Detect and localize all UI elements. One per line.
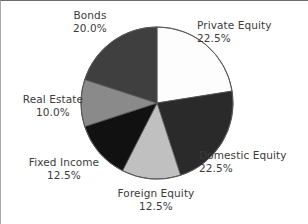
pie-label-domestic-equity-value: 22.5% — [199, 162, 287, 175]
pie-label-domestic-equity-name: Domestic Equity — [199, 149, 287, 161]
pie-label-real-estate-value: 10.0% — [7, 106, 99, 119]
pie-label-bonds-name: Bonds — [74, 9, 107, 21]
pie-label-foreign-equity-name: Foreign Equity — [118, 187, 195, 199]
pie-label-bonds: Bonds 20.0% — [47, 9, 133, 35]
pie-label-real-estate-name: Real Estate — [23, 93, 83, 105]
pie-label-foreign-equity: Foreign Equity 12.5% — [100, 187, 212, 213]
pie-label-foreign-equity-value: 12.5% — [100, 200, 212, 213]
pie-label-private-equity-name: Private Equity — [197, 19, 272, 31]
pie-chart-figure: Bonds 20.0% Private Equity 22.5% Domesti… — [0, 0, 308, 224]
pie-label-private-equity: Private Equity 22.5% — [197, 19, 272, 45]
pie-label-fixed-income: Fixed Income 12.5% — [15, 156, 113, 182]
pie-label-fixed-income-value: 12.5% — [15, 169, 113, 182]
pie-label-domestic-equity: Domestic Equity 22.5% — [199, 149, 287, 175]
pie-label-private-equity-value: 22.5% — [197, 32, 272, 45]
pie-label-real-estate: Real Estate 10.0% — [7, 93, 99, 119]
pie-label-fixed-income-name: Fixed Income — [29, 156, 99, 168]
pie-label-bonds-value: 20.0% — [47, 22, 133, 35]
